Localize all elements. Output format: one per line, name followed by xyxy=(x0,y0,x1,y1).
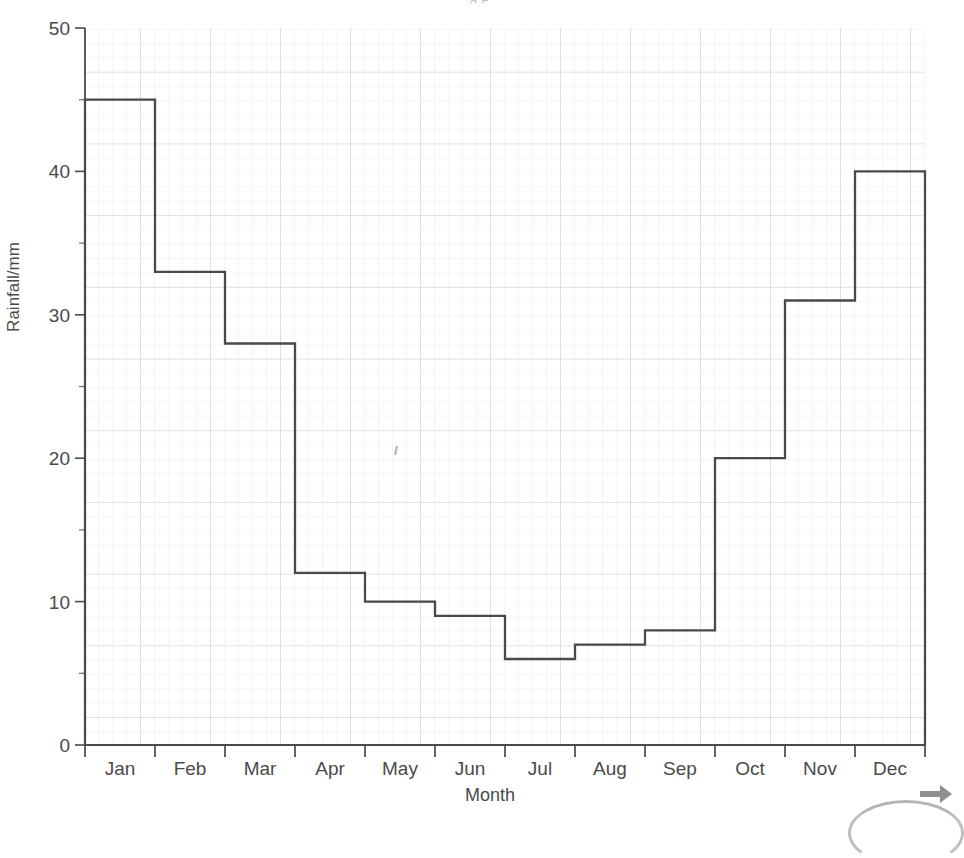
x-tick-label-aug: Aug xyxy=(575,758,645,780)
y-tick-label: 10 xyxy=(24,592,70,614)
y-tick-label: 30 xyxy=(24,305,70,327)
x-tick-label-jun: Jun xyxy=(435,758,505,780)
x-tick-label-mar: Mar xyxy=(225,758,295,780)
x-axis-title: Month xyxy=(420,785,560,806)
x-tick-label-feb: Feb xyxy=(155,758,225,780)
x-tick-label-apr: Apr xyxy=(295,758,365,780)
x-axis-ticks xyxy=(85,745,925,757)
y-tick-label: 40 xyxy=(24,161,70,183)
x-tick-label-jan: Jan xyxy=(85,758,155,780)
x-tick-label-jul: Jul xyxy=(505,758,575,780)
y-axis-title: Rainfall/mm xyxy=(4,212,24,362)
x-tick-label-sep: Sep xyxy=(645,758,715,780)
y-tick-label: 50 xyxy=(24,18,70,40)
x-tick-label-may: May xyxy=(365,758,435,780)
x-tick-label-oct: Oct xyxy=(715,758,785,780)
y-tick-label: 20 xyxy=(24,448,70,470)
partial-circle-arc xyxy=(848,800,964,858)
x-tick-label-dec: Dec xyxy=(855,758,925,780)
y-tick-label: 0 xyxy=(24,735,70,757)
y-axis-ticks xyxy=(75,28,85,745)
x-tick-label-nov: Nov xyxy=(785,758,855,780)
